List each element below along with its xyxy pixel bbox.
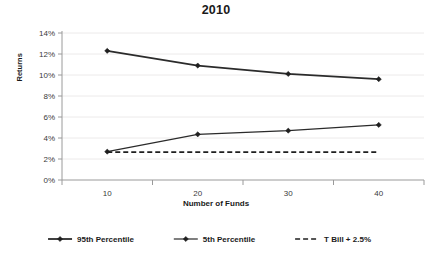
- y-tick-label: 2%: [43, 155, 55, 164]
- x-tick-label: 20: [193, 189, 202, 198]
- x-tick-labels: 10203040: [103, 189, 384, 198]
- y-tick-label: 4%: [43, 134, 55, 143]
- y-tick-label: 10%: [39, 71, 55, 80]
- legend-label-2[interactable]: 5th Percentile: [203, 235, 256, 244]
- data-point-marker: [195, 132, 200, 137]
- x-tick-label: 30: [284, 189, 293, 198]
- y-tick-labels: 0%2%4%6%8%10%12%14%: [39, 29, 55, 185]
- chart-container: 2010 Returns Number of Funds 0%2%4%6%8%1…: [0, 0, 432, 261]
- y-tick-label: 8%: [43, 92, 55, 101]
- data-point-marker: [105, 48, 110, 53]
- legend-label-1[interactable]: 95th Percentile: [77, 235, 134, 244]
- data-point-marker: [376, 77, 381, 82]
- y-tick-label: 0%: [43, 176, 55, 185]
- data-point-marker: [286, 128, 291, 133]
- chart-legend: 95th Percentile5th PercentileT Bill + 2.…: [48, 235, 371, 244]
- plot-area: 0%2%4%6%8%10%12%14% 10203040 95th Percen…: [0, 0, 432, 261]
- data-point-marker: [286, 71, 291, 76]
- y-tick-label: 6%: [43, 113, 55, 122]
- data-point-marker: [195, 63, 200, 68]
- data-point-marker: [376, 122, 381, 127]
- y-tick-label: 14%: [39, 29, 55, 38]
- x-tick-label: 40: [374, 189, 383, 198]
- x-tick-label: 10: [103, 189, 112, 198]
- legend-marker-2: [183, 236, 188, 241]
- legend-marker-1: [57, 236, 62, 241]
- legend-label-3[interactable]: T Bill + 2.5%: [324, 235, 371, 244]
- y-tick-label: 12%: [39, 50, 55, 59]
